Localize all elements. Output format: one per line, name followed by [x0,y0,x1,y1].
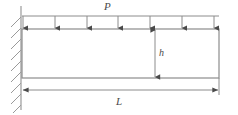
wall-hatching [11,17,21,113]
beam-diagram-figure: P h L [0,0,238,115]
distributed-load-group [22,16,219,28]
length-dimension [23,78,219,95]
load-label-P: P [104,1,111,12]
height-label-h: h [159,48,164,58]
length-label-L: L [116,96,122,107]
beam-rectangle [22,29,219,78]
fixed-wall-support [11,6,21,113]
load-arrow-set [23,16,214,28]
beam-outline [22,29,219,78]
